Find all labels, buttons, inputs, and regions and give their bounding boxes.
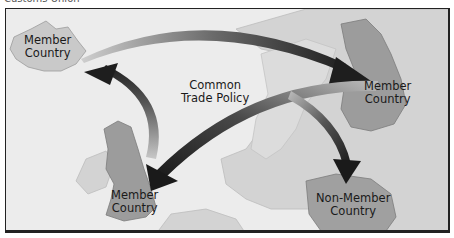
node-label-poland: Non-Member Country xyxy=(316,192,390,218)
node-label-iceland: Member Country xyxy=(24,34,71,60)
node-label-finland: Member Country xyxy=(364,80,411,106)
center-label-common-trade-policy: Common Trade Policy xyxy=(181,79,249,105)
map-frame: Member Country Member Country Member Cou… xyxy=(5,8,450,233)
arrowhead-iceland xyxy=(84,63,118,85)
diagram-caption: Customs Union xyxy=(4,0,80,4)
node-label-uk: Member Country xyxy=(111,189,158,215)
